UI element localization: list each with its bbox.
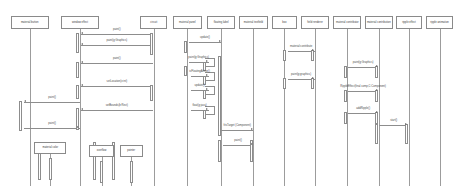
message-line-13: [223, 145, 254, 146]
lifeline-stem-3: [187, 29, 188, 186]
created-object-1[interactable]: overflow: [89, 145, 114, 157]
message-arrowhead-13: [251, 143, 253, 145]
message-arrowhead-9: [206, 74, 208, 76]
activation-bar-29: [375, 124, 378, 144]
message-label-15: paint(g:graphics): [291, 74, 311, 77]
created-object-0[interactable]: material color: [34, 142, 66, 154]
message-arrowhead-19: [405, 123, 407, 125]
message-arrowhead-15: [312, 77, 314, 79]
message-label-1: paint(g:Graphics): [107, 40, 128, 43]
lifeline-header-9[interactable]: material contribution: [365, 16, 393, 29]
sequence-diagram-canvas: paint()paint(g:Graphics)paint()setLocati…: [0, 0, 453, 190]
message-arrowhead-14: [312, 49, 314, 51]
message-label-16: paint(g:Graphics): [353, 62, 374, 65]
message-label-17: RippleEffect(final comp,C:Component): [340, 86, 386, 89]
activation-bar-28: [375, 112, 378, 124]
activation-bar-8: [150, 33, 153, 55]
activation-bar-15: [203, 90, 206, 99]
activation-bar-30: [405, 124, 408, 144]
message-arrowhead-4: [81, 108, 83, 110]
message-line-6: [24, 128, 80, 129]
message-label-12: fitsTarget (Component): [224, 125, 251, 128]
activation-bar-19: [283, 50, 286, 61]
message-line-17: [348, 91, 379, 92]
lifeline-stem-8: [347, 29, 348, 186]
activation-bar-24: [344, 90, 347, 102]
activation-bar-1: [76, 62, 79, 78]
message-label-9: isFloatingActive(): [189, 71, 210, 74]
lifeline-header-5[interactable]: material textfield: [239, 16, 268, 29]
lifeline-header-1[interactable]: window effect: [61, 16, 99, 29]
message-line-7: [189, 42, 221, 43]
lifeline-header-11[interactable]: ripple animation: [426, 16, 453, 29]
message-arrowhead-10: [206, 88, 208, 90]
message-label-4: setBounds(b:Rect): [106, 105, 128, 108]
activation-bar-21: [311, 50, 314, 61]
message-line-0: [81, 34, 153, 35]
message-arrowhead-5: [24, 100, 26, 102]
activation-bar-20: [283, 78, 286, 89]
message-line-3: [81, 86, 153, 87]
message-arrowhead-7: [219, 40, 221, 42]
activation-bar-10: [184, 41, 187, 53]
message-line-2: [81, 63, 153, 64]
lifeline-stem-9: [379, 29, 380, 186]
message-label-3: setLocation(x:int): [107, 81, 127, 84]
message-arrowhead-1: [81, 43, 83, 45]
activation-bar-4: [19, 101, 22, 131]
activation-bar-22: [311, 78, 314, 89]
message-label-8: paint(g:Graphics): [188, 57, 209, 60]
message-arrowhead-8: [206, 60, 208, 62]
message-arrowhead-2: [81, 61, 83, 63]
message-arrowhead-16: [376, 65, 378, 67]
message-line-18: [348, 113, 379, 114]
lifeline-header-3[interactable]: material panel: [173, 16, 203, 29]
activation-bar-2: [76, 85, 79, 99]
activation-bar-16: [203, 110, 206, 119]
lifeline-stem-2: [154, 29, 155, 186]
message-arrowhead-12: [251, 128, 253, 130]
activation-bar-12: [218, 56, 221, 136]
activation-bar-25: [344, 112, 347, 124]
activation-bar-0: [76, 33, 79, 53]
lifeline-stem-10: [409, 29, 410, 186]
created-object-activation-2: [130, 161, 133, 183]
message-label-18: addRipple(): [356, 108, 370, 111]
message-label-19: start(): [390, 120, 397, 123]
message-label-0: paint(): [113, 29, 121, 32]
lifeline-header-2[interactable]: circuit: [140, 16, 167, 29]
activation-bar-9: [150, 85, 153, 101]
message-label-11: float(g:java): [193, 105, 207, 108]
lifeline-header-8[interactable]: material contributor: [333, 16, 361, 29]
activation-bar-23: [344, 66, 347, 78]
lifeline-header-7[interactable]: field renderer: [301, 16, 329, 29]
lifeline-stem-0: [30, 29, 31, 186]
activation-bar-11: [184, 66, 187, 76]
lifeline-stem-5: [253, 29, 254, 186]
message-arrowhead-0: [81, 32, 83, 34]
created-object-activation-0: [49, 158, 52, 180]
message-label-6: paint(): [48, 123, 56, 126]
lifeline-stem-4: [221, 29, 222, 186]
message-arrowhead-17: [376, 89, 378, 91]
created-object-2[interactable]: pointer: [120, 145, 143, 157]
lifeline-stem-11: [440, 29, 441, 186]
message-label-13: paint(): [234, 140, 242, 143]
lifeline-header-4[interactable]: floating label: [207, 16, 236, 29]
message-arrowhead-18: [376, 111, 378, 113]
message-line-12: [221, 130, 253, 131]
lifeline-header-6[interactable]: box: [272, 16, 296, 29]
message-label-10: update(): [195, 85, 205, 88]
message-line-5: [24, 102, 80, 103]
message-label-2: paint(): [113, 58, 121, 61]
activation-bar-26: [375, 66, 378, 78]
message-line-1: [81, 45, 153, 46]
message-label-7: update(): [200, 37, 210, 40]
message-arrowhead-11: [206, 108, 208, 110]
activation-bar-27: [375, 90, 378, 102]
created-object-activation-1: [100, 161, 103, 183]
message-arrowhead-6: [77, 126, 79, 128]
activation-bar-17: [218, 140, 221, 162]
lifeline-header-0[interactable]: material button: [11, 16, 49, 29]
lifeline-header-10[interactable]: ripple effect: [396, 16, 421, 29]
